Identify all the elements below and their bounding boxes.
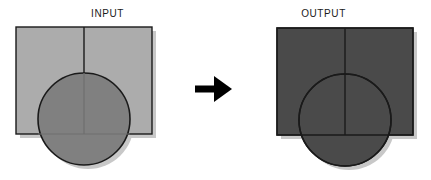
input-figure — [0, 0, 215, 180]
output-panel: OUTPUT — [216, 0, 431, 180]
figure-canvas: INPUT OUTPUT — [0, 0, 431, 180]
input-panel: INPUT — [0, 0, 215, 180]
output-figure — [216, 0, 431, 180]
